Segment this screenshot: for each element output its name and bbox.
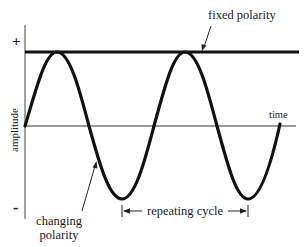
fixed-polarity-arrowhead-icon [202,44,207,51]
minus-sign: - [13,199,18,216]
cycle-right-arrowhead-icon [240,208,247,213]
polarity-diagram: + - amplitude time fixed polarity changi… [0,0,306,247]
changing-polarity-arrowhead-icon [93,161,98,169]
changing-polarity-label-line2: polarity [40,228,80,242]
time-axis-label: time [269,109,288,120]
fixed-polarity-label: fixed polarity [208,8,276,22]
changing-polarity-arrow [82,166,95,211]
cycle-left-arrowhead-icon [123,208,130,213]
fixed-polarity-arrow [204,26,211,47]
plus-sign: + [12,33,21,49]
amplitude-axis-label: amplitude [8,108,20,152]
changing-polarity-label-line1: changing [36,214,83,228]
repeating-cycle-label: repeating cycle [147,204,223,218]
